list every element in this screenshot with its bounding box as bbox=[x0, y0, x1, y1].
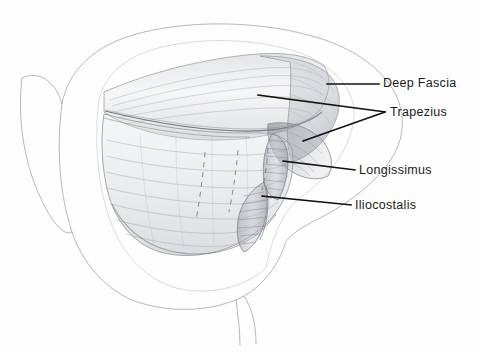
label-deep-fascia: Deep Fascia bbox=[383, 77, 456, 90]
label-iliocostalis: Iliocostalis bbox=[355, 199, 416, 212]
label-trapezius: Trapezius bbox=[390, 106, 447, 119]
anatomical-figure: Deep Fascia Trapezius Longissimus Ilioco… bbox=[0, 0, 483, 353]
label-longissimus: Longissimus bbox=[359, 164, 432, 177]
